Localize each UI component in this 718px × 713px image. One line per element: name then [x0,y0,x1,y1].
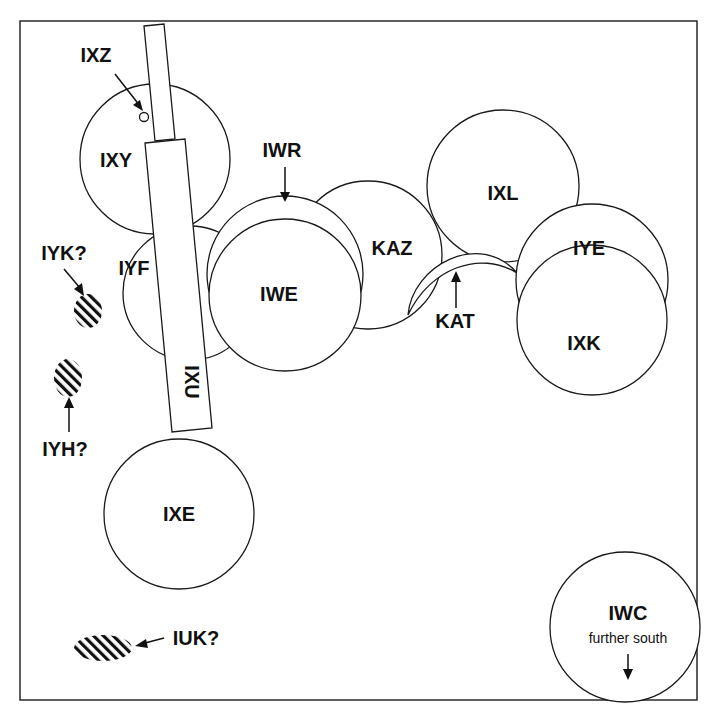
feature-iwc-circle [550,552,700,702]
label-iwr: IWR [263,139,302,161]
site-plan-diagram: IXZ IXY IWR IXL KAZ IYE IYF IWE KAT IXK … [0,0,718,713]
label-ixl: IXL [487,182,518,204]
label-ixu: IXU [181,365,203,398]
feature-ixz-posthole [140,113,149,122]
label-kaz: KAZ [371,237,412,259]
label-ixk: IXK [567,332,601,354]
label-kat: KAT [435,310,475,332]
feature-iuk-hatched-oval [74,635,132,661]
label-iyh: IYH? [42,438,88,460]
feature-iyh-hatched-oval [54,359,82,397]
label-ixz: IXZ [80,44,111,66]
label-iuk: IUK? [173,627,220,649]
label-ixe: IXE [163,503,195,525]
feature-iyk-hatched-oval [74,294,102,328]
label-iyf: IYF [118,257,149,279]
label-iwc: IWC [609,602,648,624]
label-iyk: IYK? [41,242,87,264]
feature-ixk-circle [517,245,667,395]
label-iwc-note: further south [589,630,668,646]
label-ixy: IXY [100,149,133,171]
label-iwe: IWE [260,283,298,305]
label-iye: IYE [573,237,605,259]
